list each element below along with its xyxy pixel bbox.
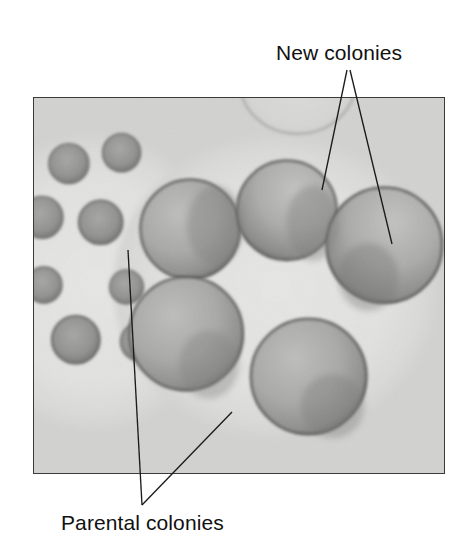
photomicrograph xyxy=(33,97,445,474)
figure-root: New colonies Parental colonies xyxy=(0,0,468,539)
annotation-label-parental-colonies: Parental colonies xyxy=(61,511,224,535)
photo-grain xyxy=(34,98,444,473)
photomicrograph-image xyxy=(34,98,444,473)
annotation-label-new-colonies: New colonies xyxy=(276,41,402,65)
